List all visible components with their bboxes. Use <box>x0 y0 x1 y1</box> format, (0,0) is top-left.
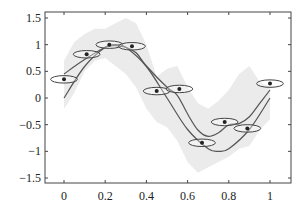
observation-point <box>155 89 159 93</box>
confidence-band <box>64 18 270 173</box>
observation-point <box>223 120 227 124</box>
x-tick-label: 0 <box>61 189 67 203</box>
y-tick-label: 1.5 <box>26 11 41 25</box>
y-tick-label: −1.5 <box>19 171 41 185</box>
observation-point <box>130 44 134 48</box>
x-tick-label: 0.6 <box>180 189 195 203</box>
observation-point <box>177 87 181 91</box>
chart: 00.20.40.60.81 1.510.50−0.5−1−1.5 <box>0 0 308 212</box>
x-tick-label: 0.4 <box>139 189 154 203</box>
y-tick-label: −1 <box>28 144 41 158</box>
y-tick-label: 1 <box>35 38 41 52</box>
observation-point <box>85 52 89 56</box>
observation-point <box>268 82 272 86</box>
observation-point <box>245 126 249 130</box>
y-tick-label: −0.5 <box>19 118 41 132</box>
y-tick-label: 0 <box>35 91 41 105</box>
observation-point <box>107 43 111 47</box>
x-tick-label: 0.2 <box>98 189 113 203</box>
x-tick-label: 0.8 <box>221 189 236 203</box>
confidence-band-area <box>64 18 270 173</box>
x-tick-label: 1 <box>267 189 273 203</box>
observation-point <box>200 141 204 145</box>
observation-point <box>62 77 66 81</box>
y-tick-label: 0.5 <box>26 64 41 78</box>
